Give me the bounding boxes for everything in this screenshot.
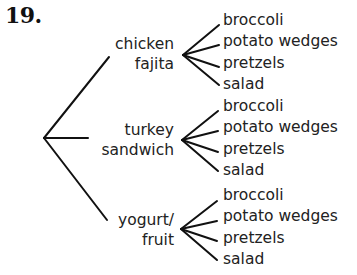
- branch-chicken-fajita: chicken fajita: [115, 34, 174, 74]
- leaf-salad: salad: [223, 74, 264, 94]
- leaf-salad: salad: [223, 160, 264, 180]
- leaf-potato-wedges: potato wedges: [223, 31, 338, 51]
- root-to-branch-1: [44, 57, 109, 138]
- leaf-salad: salad: [223, 249, 264, 269]
- leaf-potato-wedges: potato wedges: [223, 206, 338, 226]
- branch-label-line2: fajita: [115, 54, 174, 74]
- branch-turkey-sandwich: turkey sandwich: [101, 120, 174, 160]
- leaf-potato-wedges: potato wedges: [223, 117, 338, 137]
- branch-label-line2: fruit: [118, 230, 174, 250]
- leaf-broccoli: broccoli: [223, 185, 284, 205]
- root-to-branch-3: [44, 138, 107, 220]
- branch-yogurt-fruit: yogurt/ fruit: [118, 210, 174, 250]
- leaf-pretzels: pretzels: [223, 139, 285, 159]
- branch-label-line1: yogurt/: [118, 210, 174, 230]
- leaf-pretzels: pretzels: [223, 228, 285, 248]
- branch-label-line1: chicken: [115, 34, 174, 54]
- branch-label-line2: sandwich: [101, 140, 174, 160]
- leaf-broccoli: broccoli: [223, 96, 284, 116]
- leaf-pretzels: pretzels: [223, 53, 285, 73]
- leaf-broccoli: broccoli: [223, 10, 284, 30]
- branch-label-line1: turkey: [101, 120, 174, 140]
